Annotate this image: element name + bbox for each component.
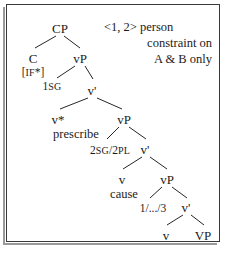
branch-cp-to-vp1: [64, 36, 80, 48]
branch-vbar2-to-v2: [123, 157, 142, 169]
branch-vp3-to-spec3: [150, 187, 162, 198]
bar-level-prime: ': [188, 200, 190, 215]
tree-node-vp3: vP: [160, 173, 174, 186]
node-label: vP: [117, 112, 131, 127]
node-label: C: [29, 51, 38, 66]
lexical-item-cause: cause: [110, 188, 138, 201]
tree-node-vp2: vP: [117, 113, 131, 126]
branch-vp2-to-spec2: [107, 127, 119, 139]
bar-level-prime: ': [94, 83, 96, 98]
feature-1to3: 1/.../3: [140, 203, 167, 215]
node-label: vP: [160, 172, 174, 187]
tree-node-c: C: [29, 52, 38, 65]
branch-vp3-to-vbar3: [172, 187, 187, 198]
tree-node-vstar: v*: [52, 113, 65, 126]
lexical-item-prescribe: prescribe: [53, 128, 99, 141]
branch-vbar3-to-VP: [191, 215, 204, 225]
bar-level-prime: ': [147, 142, 149, 157]
tree-node-vbar1: v': [88, 84, 97, 97]
branch-vbar2-to-vp3: [150, 157, 167, 169]
node-label: v: [119, 172, 126, 187]
tree-node-v2: v: [119, 173, 126, 186]
branch-vp1-to-vbar1: [85, 66, 93, 79]
syntax-tree-figure: <1, 2> person constraint on A & B only C…: [0, 0, 229, 253]
branch-vbar1-to-vstar: [60, 98, 88, 109]
node-label: v: [163, 228, 170, 243]
annotation-line-1: <1, 2> person: [104, 19, 212, 35]
branch-vbar1-to-vp2: [97, 98, 122, 109]
branch-cp-to-c: [35, 36, 56, 48]
node-label: CP: [52, 21, 68, 36]
branch-vp1-to-spec1: [57, 66, 75, 78]
feature-2sg2pl: 2SG/2PL: [90, 145, 130, 157]
tree-node-vbar2: v': [141, 143, 150, 156]
annotation-line-2: constraint on: [104, 35, 212, 51]
feature-1sg: 1SG: [43, 81, 62, 93]
node-label: VP: [195, 228, 212, 243]
tree-node-VP: VP: [195, 229, 212, 242]
branch-vp2-to-vbar2: [129, 127, 146, 139]
tree-node-cp: CP: [52, 22, 68, 35]
little-v-star: *: [58, 112, 65, 127]
annotation-line-3: A & B only: [104, 51, 212, 67]
tree-node-v3: v: [163, 229, 170, 242]
person-constraint-annotation: <1, 2> person constraint on A & B only: [104, 19, 212, 67]
feature-if-star: [IF*]: [22, 67, 45, 79]
node-label: vP: [73, 51, 87, 66]
tree-node-vp1: vP: [73, 52, 87, 65]
tree-node-vbar3: v': [182, 201, 191, 214]
branch-vbar3-to-v3: [167, 215, 183, 225]
